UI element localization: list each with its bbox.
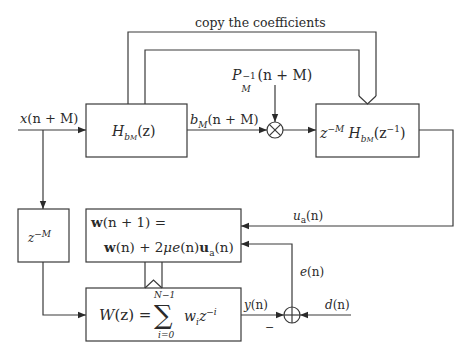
bm-signal-label: bM(n + M) (190, 113, 259, 126)
p-sup: −1 (242, 72, 255, 81)
mu-symbol: μ (163, 239, 172, 255)
w-cap: W (99, 306, 114, 324)
d-signal-label: d(n) (325, 299, 350, 311)
m-sub: M (198, 120, 207, 130)
delay-sup: −M (34, 229, 51, 239)
upd1-rest: (n + 1) = (103, 214, 166, 230)
e-signal-label: e(n) (300, 266, 324, 278)
u-bold: u (199, 239, 209, 255)
update-arrowhead (145, 280, 162, 288)
delay-output-line (43, 262, 86, 315)
update-line2: w(n) + 2μe(n)ua(n) (104, 241, 234, 255)
h-symbol: H (112, 123, 124, 139)
upd2-b: (n) (180, 239, 199, 255)
upd2-a: (n) + 2 (116, 239, 164, 255)
adaptive-filter-label: W(z) = (99, 308, 151, 323)
diagram-canvas (0, 0, 472, 360)
d-sym: d (325, 298, 333, 312)
p-inverse-label: P−1M(n + M) (232, 68, 312, 82)
ua-args: (n) (306, 209, 323, 223)
z-inv-open: (z (374, 125, 387, 141)
h-bm-label: HbM(z) (112, 124, 155, 138)
input-signal-label: x(n + M) (20, 112, 78, 125)
minus-sign: − (265, 322, 274, 333)
w-bold-1: w (91, 214, 103, 230)
ua-signal-label: ua(n) (293, 210, 323, 222)
d-args: (n) (333, 298, 350, 312)
ua-u: u (293, 209, 301, 223)
neg-m-sup: −M (327, 124, 344, 134)
sigma-symbol: ∑ (154, 302, 173, 328)
wz-eq: (z) = (114, 306, 151, 324)
e-args: (n) (307, 265, 324, 279)
z-inv-close: ) (400, 125, 405, 141)
z-arg: (z) (137, 123, 155, 139)
ua-line (241, 130, 453, 226)
time-reversed-filter-label: z−M HbM(z−1) (320, 126, 405, 140)
e-symbol: e (172, 239, 180, 255)
sum-lower-limit: i=0 (158, 331, 174, 340)
y-signal-label: y(n) (244, 299, 268, 311)
upd2-c: (n) (215, 239, 234, 255)
bm-args: (n + M) (208, 112, 259, 127)
y-args: (n) (251, 298, 268, 312)
delay-label: z−M (28, 232, 51, 244)
copy-arrowhead (359, 96, 376, 104)
p-symbol: P (232, 67, 241, 83)
inv-sup: −1 (387, 124, 400, 134)
h2-symbol: H (349, 125, 361, 141)
y-sym: y (244, 298, 251, 312)
update-line1: w(n + 1) = (91, 216, 166, 230)
w-bold-2: w (104, 239, 116, 255)
p-args: (n + M) (257, 67, 312, 83)
sum-term: wiz−i (184, 309, 217, 323)
copy-coefficients-label: copy the coefficients (195, 17, 326, 30)
wi-symbol: w (184, 308, 196, 324)
m2-subsub: M (367, 136, 374, 144)
sum-upper-limit: N−1 (154, 291, 175, 300)
x-args: (n + M) (27, 111, 78, 126)
neg-i-sup: −i (206, 307, 216, 317)
p-sub: M (241, 85, 250, 94)
